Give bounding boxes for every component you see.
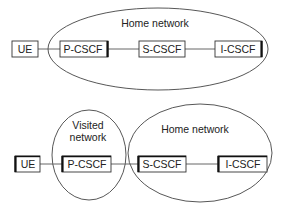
bottom-home-network-label: Home network [161,123,229,135]
top-node-scscf-label: S-CSCF [142,43,181,55]
bottom-visited-network-label-line1: Visited [72,119,103,131]
bottom-home-network-region [128,104,272,202]
bottom-node-scscf: S-CSCF [138,156,186,172]
bottom-node-icscf-label: I-CSCF [226,158,261,170]
bottom-node-ue: UE [15,156,40,172]
bottom-node-scscf-label: S-CSCF [142,158,181,170]
top-node-scscf: S-CSCF [139,41,185,57]
top-node-pcscf: P-CSCF [60,41,108,57]
top-node-icscf-label: I-CSCF [221,43,256,55]
top-home-network-label: Home network [121,17,189,29]
cscf-topology-diagram: Home network UE P-CSCF S-CSCF I-CSCF [0,0,282,212]
bottom-diagram: Visited network Home network UE P-CSCF [15,104,272,202]
bottom-visited-network-label-line2: network [70,131,108,143]
bottom-node-ue-label: UE [21,158,36,170]
bottom-node-pcscf-label: P-CSCF [67,158,106,170]
bottom-node-icscf: I-CSCF [218,156,267,172]
top-node-ue: UE [12,41,38,57]
top-node-pcscf-label: P-CSCF [63,43,102,55]
top-node-ue-label: UE [18,43,33,55]
bottom-node-pcscf: P-CSCF [62,156,111,172]
top-node-icscf: I-CSCF [215,41,262,57]
top-diagram: Home network UE P-CSCF S-CSCF I-CSCF [12,8,268,90]
